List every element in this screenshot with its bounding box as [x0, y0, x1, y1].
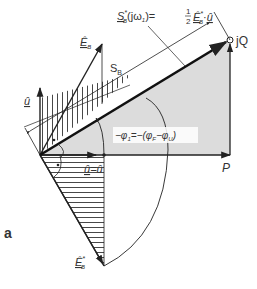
e-b-label: ÊB: [80, 36, 91, 50]
s-b-label: SB: [110, 62, 122, 76]
phasor-diagram: S*B(jω1)= 1 2 Ê*B·û SB jQ P ÊB û û=û Ê*B…: [0, 0, 257, 289]
right-angle-dot-upper: [53, 139, 56, 142]
half-numerator: 1: [186, 7, 191, 16]
jq-label: jQ: [235, 34, 248, 48]
panel-label: a: [4, 225, 12, 241]
e-b-conj-label: Ê*B: [75, 255, 85, 270]
u-vertical-label: û: [24, 95, 30, 107]
end-tick-right: [214, 12, 230, 40]
half-denominator: 2: [186, 17, 191, 26]
end-tick-left: [25, 128, 40, 155]
formula-leader: [148, 26, 185, 66]
u-equal-label: û=û: [84, 163, 103, 175]
right-angle-dot-lower: [57, 164, 60, 167]
formula-label: S*B(jω1)=: [117, 9, 155, 24]
phi-equation-label: −φ1=−(φF−φU): [115, 130, 176, 142]
rhs-label: Ê*B·û: [193, 10, 213, 25]
p-label: P: [222, 161, 230, 175]
